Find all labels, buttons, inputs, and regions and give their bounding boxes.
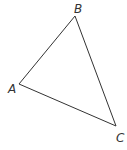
vertex-label-a: A bbox=[7, 82, 16, 96]
triangle-abc bbox=[19, 16, 116, 126]
vertex-label-b: B bbox=[74, 2, 82, 16]
vertex-label-c: C bbox=[116, 131, 125, 145]
triangle-diagram: A B C bbox=[0, 0, 127, 150]
